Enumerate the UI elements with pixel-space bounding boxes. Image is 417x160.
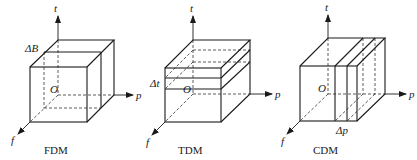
- tdm-caption: TDM: [178, 144, 203, 156]
- multiplexing-diagram: t p f O ΔB FDM t: [0, 0, 417, 160]
- cdm-f-label: f: [281, 135, 286, 147]
- fdm-f-label: f: [11, 134, 16, 146]
- fdm-slice-label: ΔB: [24, 42, 38, 54]
- tdm-panel: t p f O Δt TDM: [146, 2, 281, 156]
- tdm-t-label: t: [190, 2, 194, 14]
- tdm-origin-label: O: [183, 83, 191, 95]
- cdm-t-label: t: [325, 1, 329, 13]
- cdm-p-label: p: [408, 88, 415, 100]
- cdm-origin-label: O: [318, 82, 326, 94]
- fdm-panel: t p f O ΔB FDM: [11, 2, 142, 156]
- f-axis-arrow: [152, 122, 165, 135]
- f-axis-arrow: [287, 121, 300, 134]
- cdm-panel: t p f O Δp CDM: [281, 1, 415, 156]
- cdm-slice-label: Δp: [335, 124, 348, 136]
- fdm-origin-label: O: [50, 83, 58, 95]
- tdm-f-label: f: [146, 136, 151, 148]
- fdm-axes: [18, 16, 133, 134]
- f-axis-arrow: [18, 122, 30, 134]
- cdm-caption: CDM: [313, 144, 338, 156]
- fdm-p-label: p: [135, 89, 142, 101]
- tdm-p-label: p: [274, 88, 281, 100]
- fdm-caption: FDM: [44, 144, 68, 156]
- fdm-t-label: t: [54, 2, 58, 14]
- tdm-slice-label: Δt: [149, 77, 160, 89]
